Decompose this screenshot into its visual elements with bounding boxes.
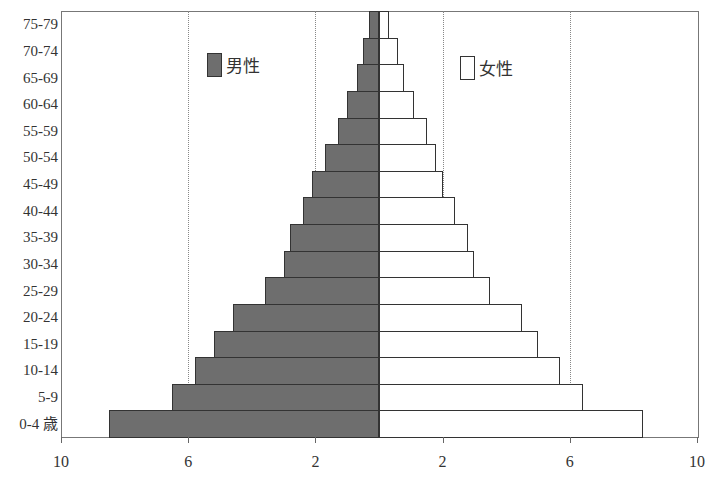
bar-male <box>265 277 379 305</box>
bar-female <box>379 410 643 438</box>
y-axis-label: 60-64 <box>23 96 58 112</box>
bar-male <box>233 304 379 332</box>
bar-male <box>303 197 379 225</box>
bar-female <box>379 11 389 39</box>
legend-female: 女性 <box>460 55 513 80</box>
x-axis-tick-label: 10 <box>53 453 69 471</box>
x-axis-tick-label: 10 <box>689 453 705 471</box>
x-axis-tick-label: 6 <box>566 453 574 471</box>
x-axis-tick <box>443 437 444 443</box>
gridline <box>570 11 571 437</box>
bar-female <box>379 64 404 92</box>
y-axis-label: 50-54 <box>23 149 58 165</box>
bar-male <box>357 64 379 92</box>
bar-female <box>379 171 443 199</box>
y-axis-label: 10-14 <box>23 362 58 378</box>
y-axis-label: 15-19 <box>23 336 58 352</box>
bar-female <box>379 224 468 252</box>
bar-male <box>172 384 379 412</box>
bar-female <box>379 357 560 385</box>
x-axis-tick-label: 2 <box>439 453 447 471</box>
bar-male <box>290 224 379 252</box>
bar-female <box>379 384 583 412</box>
legend-female-label: 女性 <box>479 55 513 80</box>
bar-female <box>379 38 398 66</box>
bar-male <box>369 11 379 39</box>
y-axis-label: 5-9 <box>38 389 58 405</box>
y-axis-label: 70-74 <box>23 43 58 59</box>
bar-female <box>379 304 522 332</box>
y-axis-label: 30-34 <box>23 256 58 272</box>
bar-male <box>312 171 379 199</box>
legend-female-swatch <box>460 56 475 80</box>
x-axis-tick <box>315 437 316 443</box>
legend-male-label: 男性 <box>226 52 260 77</box>
bar-male <box>214 331 379 359</box>
y-axis-label: 35-39 <box>23 229 58 245</box>
legend-male: 男性 <box>207 52 260 77</box>
bar-male <box>284 251 379 279</box>
x-axis-tick-label: 2 <box>311 453 319 471</box>
bar-female <box>379 118 427 146</box>
bar-male <box>363 38 379 66</box>
bar-male <box>195 357 379 385</box>
bar-female <box>379 251 474 279</box>
bar-female <box>379 91 414 119</box>
bar-male <box>109 410 379 438</box>
y-axis-label: 55-59 <box>23 123 58 139</box>
y-axis-label: 45-49 <box>23 176 58 192</box>
gridline <box>188 11 189 437</box>
y-axis-label: 25-29 <box>23 283 58 299</box>
bar-male <box>347 91 379 119</box>
y-axis-label: 20-24 <box>23 309 58 325</box>
y-axis-label: 65-69 <box>23 70 58 86</box>
bar-female <box>379 277 490 305</box>
bar-female <box>379 331 538 359</box>
x-axis-tick <box>61 437 62 443</box>
x-axis-tick <box>188 437 189 443</box>
y-axis-label: 40-44 <box>23 203 58 219</box>
bar-female <box>379 197 455 225</box>
x-axis-tick <box>570 437 571 443</box>
population-pyramid-chart: 75-7970-7465-6960-6455-5950-5445-4940-44… <box>0 0 709 478</box>
y-axis-label: 0-4 歳 <box>19 416 58 432</box>
bar-female <box>379 144 436 172</box>
bar-male <box>338 118 379 146</box>
x-axis-tick-label: 6 <box>184 453 192 471</box>
legend-male-swatch <box>207 53 222 77</box>
bar-male <box>325 144 379 172</box>
y-axis-label: 75-79 <box>23 16 58 32</box>
x-axis-tick <box>697 437 698 443</box>
